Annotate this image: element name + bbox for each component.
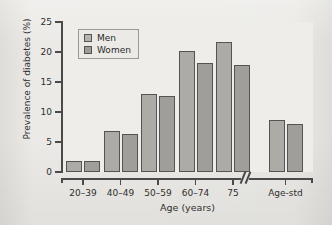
x-axis-tick-label: Age-std (258, 188, 314, 198)
y-axis-tick-label: 25 (34, 18, 52, 27)
bar-women-2 (122, 134, 138, 172)
x-axis-tick-label: 75 (205, 188, 261, 198)
bar-women-4 (197, 63, 213, 172)
y-axis-line (61, 21, 63, 173)
x-axis-line-right (249, 178, 313, 180)
bar-chart: 0510152025 20–3940–4950–5960–7475Age-std… (0, 0, 332, 225)
legend-swatch-men-icon (84, 34, 92, 42)
bar-men-2 (104, 131, 120, 172)
y-axis-tick-label: 15 (34, 78, 52, 87)
bar-women-6 (287, 124, 303, 172)
x-axis-tick (232, 179, 234, 185)
legend-label-men: Men (97, 33, 116, 43)
bar-men-6 (269, 120, 285, 172)
legend-entry-men: Men (84, 33, 131, 43)
y-axis-tick (55, 141, 61, 143)
y-axis-tick (55, 51, 61, 53)
y-axis-tick-label: 20 (34, 48, 52, 57)
x-axis-title: Age (years) (62, 202, 313, 213)
y-axis-title: Prevalence of diabetes (%) (22, 4, 32, 154)
legend: Men Women (78, 29, 139, 59)
bar-men-5 (216, 42, 232, 172)
x-axis-left-cap (61, 178, 63, 183)
x-axis-tick (285, 179, 287, 185)
x-axis-tick (157, 179, 159, 185)
x-axis-tick (120, 179, 122, 185)
bar-men-4 (179, 51, 195, 172)
bar-women-1 (84, 161, 100, 172)
y-axis-tick-label: 10 (34, 108, 52, 117)
y-axis-tick (55, 21, 61, 23)
x-axis-tick (195, 179, 197, 185)
legend-entry-women: Women (84, 45, 131, 55)
bar-men-1 (66, 161, 82, 172)
y-axis-tick-label: 5 (34, 138, 52, 147)
bar-women-3 (159, 96, 175, 172)
bar-men-3 (141, 94, 157, 172)
bar-women-5 (234, 65, 250, 172)
figure-screenshot: 0510152025 20–3940–4950–5960–7475Age-std… (0, 0, 332, 225)
y-axis-tick (55, 81, 61, 83)
y-axis-tick (55, 171, 61, 173)
legend-swatch-women-icon (84, 46, 92, 54)
axis-break-icon (239, 171, 253, 185)
legend-label-women: Women (97, 45, 131, 55)
y-axis-tick (55, 111, 61, 113)
x-axis-tick (82, 179, 84, 185)
x-axis-line-left (61, 178, 241, 180)
y-axis-tick-label: 0 (34, 168, 52, 177)
x-axis-right-cap (311, 178, 313, 183)
